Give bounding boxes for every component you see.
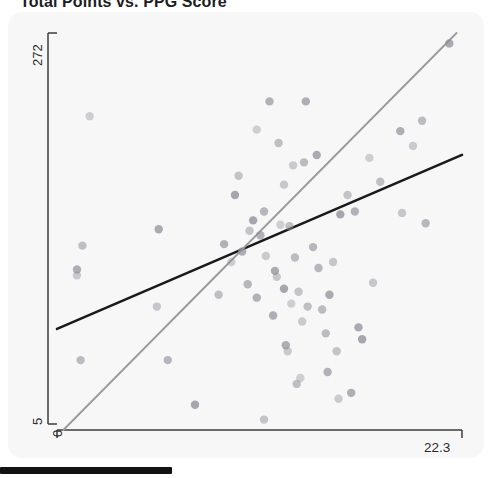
data-point [283, 347, 291, 355]
data-point [347, 389, 355, 397]
data-point [421, 219, 429, 227]
data-point [260, 207, 268, 215]
data-point [245, 227, 253, 235]
data-point [269, 311, 277, 319]
data-point [273, 273, 281, 281]
data-point [332, 347, 340, 355]
data-point [231, 191, 239, 199]
data-point [164, 356, 172, 364]
data-point [153, 302, 161, 310]
data-point [409, 142, 417, 150]
data-point [343, 191, 351, 199]
data-point [294, 288, 302, 296]
data-point [234, 172, 242, 180]
data-point [243, 280, 251, 288]
data-point [155, 225, 163, 233]
scatter-plot: 272 5 0 22.3 [0, 0, 492, 478]
data-point [336, 210, 344, 218]
data-point [313, 151, 321, 159]
data-point [214, 290, 222, 298]
data-point [220, 240, 228, 248]
data-point [260, 415, 268, 423]
data-point [318, 305, 326, 313]
data-point [376, 177, 384, 185]
data-point [191, 401, 199, 409]
data-point [303, 302, 311, 310]
data-point [227, 258, 235, 266]
data-point [256, 231, 264, 239]
data-point [369, 279, 377, 287]
data-point [78, 241, 86, 249]
data-point [73, 271, 81, 279]
data-point [354, 323, 362, 331]
y-axis-max-tick-label: 272 [30, 44, 45, 66]
data-point [358, 335, 366, 343]
primary-fit-line [57, 155, 462, 329]
plot-canvas [0, 0, 492, 478]
data-point [300, 158, 308, 166]
data-point [445, 39, 453, 47]
data-point [280, 285, 288, 293]
data-point [287, 299, 295, 307]
data-point [285, 222, 293, 230]
data-point [265, 97, 273, 105]
data-point [418, 117, 426, 125]
data-point [276, 221, 284, 229]
data-point-layer [73, 39, 454, 424]
data-point [289, 161, 297, 169]
data-point [293, 380, 301, 388]
data-point [309, 243, 317, 251]
data-point [76, 356, 84, 364]
data-point [365, 154, 373, 162]
data-point [302, 97, 310, 105]
data-point [253, 293, 261, 301]
y-axis-min-tick-label: 5 [30, 418, 45, 425]
data-point [298, 317, 306, 325]
data-point [280, 180, 288, 188]
data-point [325, 290, 333, 298]
data-point [253, 125, 261, 133]
data-point [85, 112, 93, 120]
data-point [351, 207, 359, 215]
x-axis-max-tick-label: 22.3 [424, 440, 450, 455]
data-point [329, 258, 337, 266]
data-point [396, 127, 404, 135]
data-point [274, 139, 282, 147]
horizontal-scrollbar-thumb[interactable] [0, 467, 172, 474]
data-point [249, 216, 257, 224]
data-point [262, 252, 270, 260]
data-point [323, 368, 331, 376]
data-point [334, 395, 342, 403]
data-point [238, 247, 246, 255]
data-point [291, 253, 299, 261]
data-point [398, 209, 406, 217]
data-point [322, 329, 330, 337]
x-axis-min-tick-label: 0 [50, 430, 65, 437]
data-point [314, 264, 322, 272]
